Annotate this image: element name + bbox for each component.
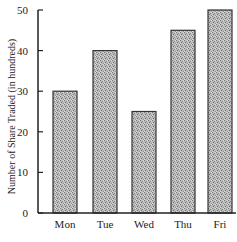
bar-wed [132,112,156,214]
x-label-mon: Mon [55,218,76,230]
x-label-wed: Wed [134,218,154,230]
bars [53,10,232,213]
x-label-tue: Tue [97,218,114,230]
y-tick-label: 20 [17,126,29,138]
bar-mon [53,91,77,213]
y-tick-label: 10 [17,166,29,178]
x-label-thu: Thu [174,218,192,230]
y-axis-ticks: 01020304050 [17,4,43,219]
x-label-fri: Fri [214,218,227,230]
y-tick-label: 50 [17,4,29,16]
x-axis-labels: MonTueWedThuFri [55,218,227,230]
bar-fri [208,10,232,213]
bar-thu [171,30,195,213]
bar-tue [93,51,117,213]
y-tick-label: 40 [17,45,29,57]
y-axis-label: Number of Share Traded (in hundreds) [6,39,18,194]
bar-chart: 01020304050 MonTueWedThuFri Number of Sh… [0,0,237,242]
y-tick-label: 0 [23,207,29,219]
y-tick-label: 30 [17,85,29,97]
